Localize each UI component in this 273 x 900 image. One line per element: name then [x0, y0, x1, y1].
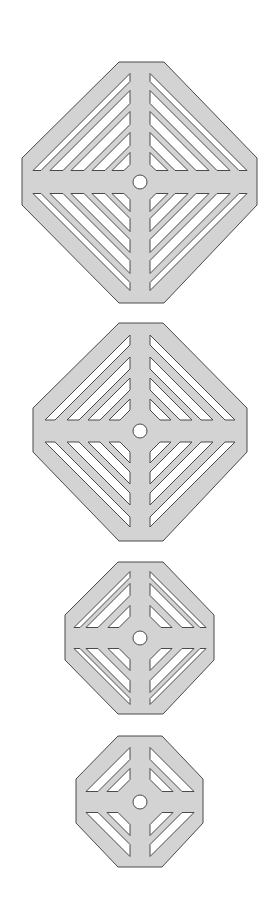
grate-plate-3 — [65, 562, 214, 714]
center-hole — [133, 175, 147, 189]
grate-plates-drawing — [0, 0, 273, 900]
grate-plate-2 — [33, 323, 247, 541]
grate-plate-4 — [76, 736, 203, 867]
grate-plate-1 — [22, 62, 257, 303]
center-hole — [133, 424, 147, 438]
center-hole — [133, 631, 147, 645]
diagram-canvas: Octagonal drain grate plates with diagon… — [0, 0, 273, 900]
center-hole — [133, 795, 147, 809]
